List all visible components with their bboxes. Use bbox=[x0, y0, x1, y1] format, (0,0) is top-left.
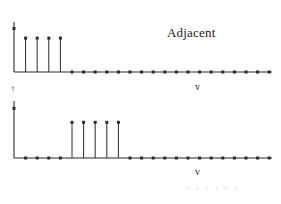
baseline-marker bbox=[268, 157, 271, 160]
baseline-marker bbox=[198, 157, 201, 160]
top-axis-label-v: v bbox=[195, 82, 200, 92]
stem-marker bbox=[117, 121, 120, 124]
baseline-marker bbox=[210, 157, 213, 160]
baseline-marker bbox=[187, 157, 190, 160]
bottom-spectrum-plot bbox=[0, 0, 281, 204]
stem-marker bbox=[71, 121, 74, 124]
bottom-axis-label-v: v bbox=[195, 167, 200, 177]
baseline-marker bbox=[175, 157, 178, 160]
baseline-marker bbox=[163, 157, 166, 160]
baseline-marker bbox=[233, 157, 236, 160]
origin-tick-marker: † bbox=[11, 86, 15, 94]
stem-marker bbox=[94, 121, 97, 124]
continuation-ellipsis: · · · · · · bbox=[186, 184, 239, 193]
baseline-marker bbox=[24, 157, 27, 160]
baseline-marker bbox=[221, 157, 224, 160]
baseline-marker bbox=[256, 157, 259, 160]
adjacent-label: Adjacent bbox=[167, 26, 216, 39]
baseline-marker bbox=[245, 157, 248, 160]
baseline-marker bbox=[59, 157, 62, 160]
baseline-marker bbox=[140, 157, 143, 160]
baseline-marker bbox=[47, 157, 50, 160]
baseline-marker bbox=[129, 157, 132, 160]
baseline-marker bbox=[36, 157, 39, 160]
baseline-marker bbox=[152, 157, 155, 160]
figure-canvas: Adjacent v v · · · · · · † bbox=[0, 0, 281, 204]
stem-marker bbox=[13, 107, 16, 110]
stem-marker bbox=[82, 121, 85, 124]
stem-marker bbox=[105, 121, 108, 124]
